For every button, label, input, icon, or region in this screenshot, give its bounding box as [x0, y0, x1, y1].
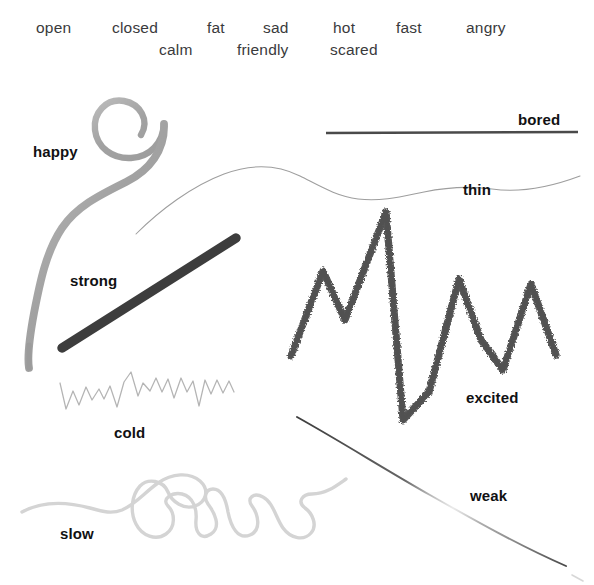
label-strong: strong — [70, 272, 117, 289]
corner-mark — [572, 575, 583, 581]
label-slow: slow — [60, 525, 94, 542]
stroke-strong — [62, 238, 236, 348]
word-fast: fast — [396, 19, 422, 37]
line-quality-figure: open closed fat sad hot fast angry calm … — [0, 0, 594, 585]
word-angry: angry — [466, 19, 506, 37]
stroke-weak — [297, 417, 566, 566]
label-weak: weak — [470, 487, 507, 504]
word-friendly: friendly — [237, 41, 289, 59]
word-fat: fat — [207, 19, 225, 37]
stroke-bored — [326, 132, 578, 133]
stroke-thin — [136, 167, 580, 234]
word-scared: scared — [330, 41, 378, 59]
word-calm: calm — [159, 41, 193, 59]
label-thin: thin — [463, 181, 491, 198]
label-bored: bored — [518, 111, 560, 128]
word-closed: closed — [112, 19, 158, 37]
stroke-cold — [60, 372, 234, 409]
label-cold: cold — [114, 424, 145, 441]
word-sad: sad — [263, 19, 289, 37]
label-excited: excited — [466, 389, 518, 406]
word-open: open — [36, 19, 71, 37]
word-bank-row-1: open closed fat sad hot fast angry — [0, 19, 594, 41]
stroke-happy — [28, 101, 164, 368]
word-hot: hot — [333, 19, 355, 37]
word-bank-row-2: calm friendly scared — [0, 41, 594, 63]
label-happy: happy — [33, 143, 78, 160]
